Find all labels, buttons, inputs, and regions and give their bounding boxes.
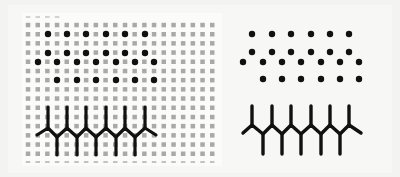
grid-square [26, 60, 31, 65]
grid-square [171, 78, 176, 83]
dot [327, 49, 333, 55]
grid-square [142, 23, 147, 28]
dot [103, 31, 109, 37]
grid-dash [84, 161, 89, 163]
grid-square [36, 32, 41, 37]
grid-square [84, 78, 89, 83]
grid-square [191, 32, 196, 37]
grid-square [171, 133, 176, 138]
grid-square [181, 87, 186, 92]
grid-square [94, 115, 99, 120]
grid-square [123, 142, 128, 147]
grid-square [171, 32, 176, 37]
grid-square [74, 87, 79, 92]
grid-square [210, 115, 215, 120]
grid-square [26, 50, 31, 55]
grid-square [171, 60, 176, 65]
grid-square [171, 41, 176, 46]
grid-square [210, 60, 215, 65]
grid-square [200, 133, 205, 138]
grid-square [36, 124, 41, 128]
grid-square [132, 69, 137, 74]
grid-square [132, 87, 137, 92]
grid-square [200, 69, 205, 74]
grid-square [181, 142, 186, 147]
grid-square [162, 115, 167, 120]
grid-square [123, 60, 128, 65]
grid-square [191, 78, 196, 83]
grid-dash [152, 161, 157, 163]
grid-square [152, 69, 157, 74]
grid-square [94, 50, 99, 55]
grid-square [55, 106, 60, 111]
dot [260, 76, 266, 82]
dot [269, 49, 275, 55]
grid-square [26, 124, 31, 128]
grid-square [191, 115, 196, 120]
grid-square [65, 41, 70, 46]
grid-square [36, 87, 41, 92]
grid-square [113, 106, 118, 111]
dot [356, 76, 362, 82]
grid-square [55, 96, 60, 101]
grid-square [55, 124, 60, 128]
grid-square [152, 152, 157, 157]
dot [74, 59, 80, 65]
grid-square [210, 50, 215, 55]
grid-square [94, 69, 99, 74]
grid-square [191, 23, 196, 28]
grid-square [55, 69, 60, 74]
grid-square [210, 106, 215, 111]
grid-square [74, 23, 79, 28]
dot [54, 77, 60, 83]
grid-square [55, 32, 60, 37]
grid-square [191, 142, 196, 147]
grid-square [26, 69, 31, 74]
grid-square [181, 106, 186, 111]
grid-dash [162, 161, 167, 163]
grid-square [94, 96, 99, 101]
grid-square [103, 96, 108, 101]
grid-square [26, 32, 31, 37]
dot [288, 31, 294, 37]
grid-square [181, 50, 186, 55]
grid-square [84, 60, 89, 65]
grid-square [181, 96, 186, 101]
grid-square [74, 96, 79, 101]
grid-square [74, 32, 79, 37]
grid-dash [191, 161, 196, 163]
grid-square [45, 69, 50, 74]
dot [113, 77, 119, 83]
grid-square [26, 142, 31, 147]
grid-square [181, 32, 186, 37]
grid-square [65, 96, 70, 101]
grid-square [84, 41, 89, 46]
grid-square [94, 32, 99, 37]
grid-square [162, 124, 167, 128]
grid-square [200, 96, 205, 101]
grid-square [103, 69, 108, 74]
grid-square [152, 32, 157, 37]
grid-square [26, 152, 31, 157]
grid-square [113, 32, 118, 37]
dot [356, 59, 362, 65]
grid-square [113, 115, 118, 120]
dot [93, 59, 99, 65]
grid-square [123, 41, 128, 46]
grid-square [142, 87, 147, 92]
grid-square [181, 124, 186, 128]
dot [35, 59, 41, 65]
grid-square [94, 106, 99, 111]
grid-dash [36, 16, 41, 18]
grid-square [36, 50, 41, 55]
grid-square [181, 69, 186, 74]
dot [93, 77, 99, 83]
grid-square [142, 152, 147, 157]
dot [64, 50, 70, 56]
grid-square [210, 142, 215, 147]
grid-square [74, 115, 79, 120]
grid-square [181, 78, 186, 83]
grid-square [162, 78, 167, 83]
grid-dash [55, 16, 60, 18]
grid-square [103, 41, 108, 46]
